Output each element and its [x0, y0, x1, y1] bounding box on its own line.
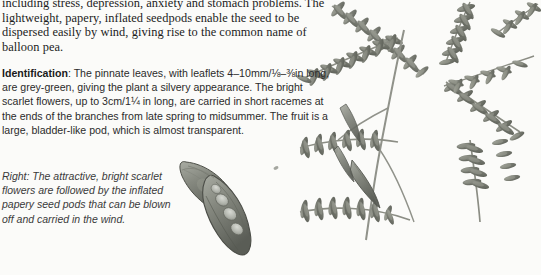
small-bud-mark — [273, 165, 279, 170]
leaf-spray-upper-left — [329, 0, 430, 79]
seedpod-on-stem — [334, 146, 380, 208]
identification-label: Identification — [2, 67, 68, 79]
leaf-spray-right-lower — [456, 138, 520, 222]
page-root: including stress, depression, anxiety an… — [0, 0, 541, 275]
leaf-spray-far-right-upper — [490, 1, 541, 40]
identification-block: Identification: The pinnate leaves, with… — [2, 66, 332, 137]
figure-caption-right: Right: The attractive, bright scarlet fl… — [2, 169, 180, 226]
inflated-seedpod-upper — [180, 162, 237, 215]
leaf-spray-bottom-arc — [299, 196, 410, 226]
central-stem — [338, 30, 414, 240]
leaf-spray-right-upper-angle — [444, 56, 534, 95]
seedpod-upper-centre — [340, 104, 360, 142]
body-paragraph: including stress, depression, anxiety an… — [2, 0, 336, 54]
body-paragraph-text: including stress, depression, anxiety an… — [2, 0, 324, 54]
inflated-seedpod-lower-with-seeds — [203, 175, 251, 255]
seedpod-stalk — [182, 168, 214, 178]
leaf-spray-top-right — [438, 1, 476, 66]
caption-label: Right — [2, 170, 27, 182]
leaf-spray-right-middle — [442, 78, 525, 142]
